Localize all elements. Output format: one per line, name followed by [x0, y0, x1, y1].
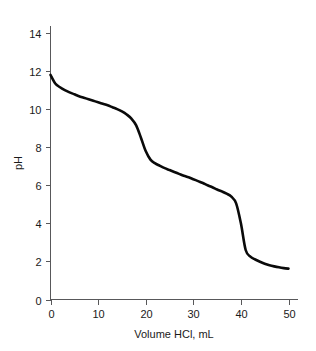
x-tick-label-0: 0 — [48, 308, 54, 320]
y-tick-label-6: 6 — [35, 180, 41, 192]
y-tick-label-8: 8 — [35, 142, 41, 154]
y-tick-label-10: 10 — [29, 104, 41, 116]
x-tick-label-30: 30 — [187, 308, 199, 320]
x-tick-label-10: 10 — [92, 308, 104, 320]
x-axis-title: Volume HCl, mL — [134, 328, 213, 340]
x-tick-label-50: 50 — [283, 308, 295, 320]
y-tick-label-12: 12 — [29, 66, 41, 78]
y-tick-label-4: 4 — [35, 218, 41, 230]
y-tick-label-0: 0 — [35, 295, 41, 307]
x-tick-label-20: 20 — [140, 308, 152, 320]
x-tick-label-40: 40 — [235, 308, 247, 320]
chart-figure: 02468101214 01020304050 Volume HCl, mL p… — [0, 0, 316, 351]
chart-background — [0, 0, 316, 351]
y-axis-title: pH — [12, 156, 24, 170]
y-tick-label-2: 2 — [35, 256, 41, 268]
y-tick-label-14: 14 — [29, 28, 41, 40]
titration-curve-chart: 02468101214 01020304050 Volume HCl, mL p… — [0, 0, 316, 351]
